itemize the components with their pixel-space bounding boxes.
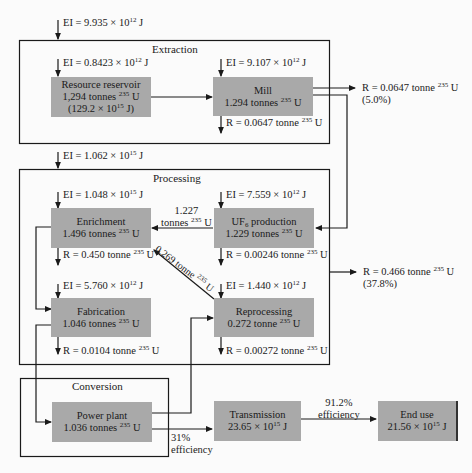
extraction-residual: R = 0.0647 tonne 235 U(5.0%)	[362, 82, 458, 106]
processing-ei-input: EI = 1.062 × 1015 J	[63, 150, 143, 162]
mill-box: Mill 1.294 tonnes 235 U	[213, 77, 313, 116]
resource-reservoir-box: Resource reservoir 1,294 tonnes 235 U (1…	[51, 77, 151, 117]
uf6-residual: R = 0.00246 tonne 235 U	[226, 249, 328, 261]
fabrication-box: Fabrication 1.046 tonnes 235 U	[51, 298, 151, 337]
extraction-ei-input: EI = 9.935 × 1012 J	[63, 17, 143, 29]
reprocessing-residual: R = 0.00272 tonne 235 U	[226, 345, 328, 357]
power-plant-box: Power plant 1.036 tonnes 235 U	[52, 402, 152, 442]
reprocessing-box: Reprocessing 0.272 tonne 235 U	[214, 298, 314, 337]
transmission-box: Transmission 23.65 × 1015 J	[214, 401, 301, 441]
uf6-to-enrichment-flow: 1.227tonnes 235 U	[161, 205, 212, 229]
reprocessing-ei: EI = 1.440 × 1012 J	[226, 280, 306, 292]
uf6-production-box: UF6 production 1.229 tonnes 235 U	[214, 208, 314, 248]
enrichment-residual: R = 0.450 tonne 235 U	[63, 249, 154, 261]
mill-residual: R = 0.0647 tonne 235 U	[226, 117, 322, 129]
power-efficiency: 31%efficiency	[171, 432, 213, 456]
processing-title: Processing	[153, 172, 201, 184]
extraction-title: Extraction	[152, 43, 198, 55]
mill-ei: EI = 9.107 × 1012 J	[226, 57, 306, 69]
conversion-title: Conversion	[72, 380, 123, 392]
enrichment-box: Enrichment 1.496 tonnes 235 U	[51, 208, 151, 248]
fabrication-ei: EI = 5.760 × 1012 J	[63, 280, 143, 292]
uf6-ei: EI = 7.559 × 1012 J	[226, 189, 306, 201]
transmission-efficiency: 91.2%efficiency	[318, 397, 360, 421]
fabrication-residual: R = 0.0104 tonne 235 U	[63, 345, 159, 357]
processing-residual: R = 0.466 tonne 235 U(37.8%)	[363, 266, 454, 290]
end-use-box: End use 21.56 × 1015 J	[378, 401, 458, 441]
enrichment-ei: EI = 1.048 × 1015 J	[63, 189, 143, 201]
reservoir-ei: EI = 0.8423 × 1012 J	[63, 57, 148, 69]
